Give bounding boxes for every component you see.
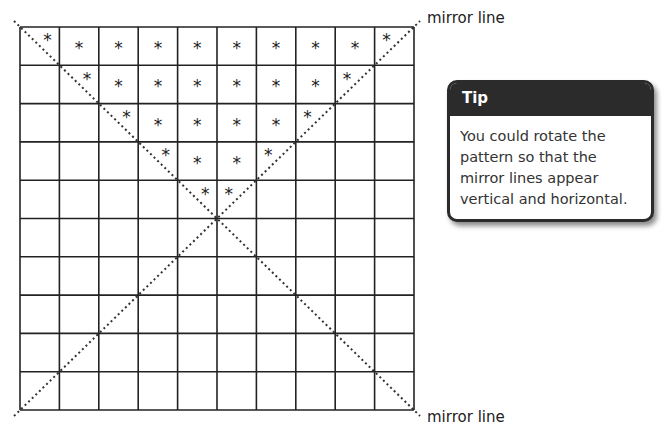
asterisk: * [232, 38, 241, 58]
asterisk: * [311, 76, 320, 96]
asterisk: * [193, 76, 202, 96]
tip-box: Tip You could rotate the pattern so that… [447, 80, 654, 222]
asterisk: * [272, 38, 281, 58]
asterisk: * [201, 184, 210, 204]
asterisk: * [225, 184, 234, 204]
mirror-line-label-top: mirror line [427, 9, 505, 27]
asterisk: * [382, 30, 391, 50]
asterisk: * [264, 145, 273, 165]
asterisk: * [272, 76, 281, 96]
asterisk: * [43, 30, 52, 50]
asterisk: * [154, 76, 163, 96]
asterisk: * [193, 115, 202, 135]
asterisk: * [154, 115, 163, 135]
asterisk: * [122, 107, 131, 127]
asterisk: * [75, 38, 84, 58]
asterisk: * [193, 38, 202, 58]
asterisk: * [303, 107, 312, 127]
asterisk: * [232, 153, 241, 173]
asterisk: * [232, 76, 241, 96]
tip-text: You could rotate the pattern so that the… [450, 116, 651, 210]
asterisk: * [154, 38, 163, 58]
asterisk: * [351, 38, 360, 58]
tip-title: Tip [450, 83, 651, 116]
asterisk: * [114, 38, 123, 58]
mirror-line-label-bottom: mirror line [427, 408, 505, 426]
asterisk: * [83, 69, 92, 89]
asterisk: * [162, 145, 171, 165]
asterisk: * [272, 115, 281, 135]
asterisk: * [193, 153, 202, 173]
asterisk: * [114, 76, 123, 96]
asterisk: * [311, 38, 320, 58]
asterisk: * [343, 69, 352, 89]
asterisk: * [232, 115, 241, 135]
